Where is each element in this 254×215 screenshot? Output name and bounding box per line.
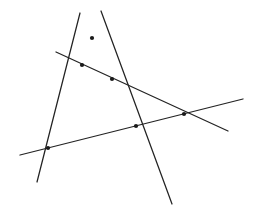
line-figure-canvas bbox=[0, 0, 254, 215]
line-lower-transversal bbox=[20, 99, 243, 155]
intersection-node-left-upper bbox=[80, 63, 84, 67]
lines-group bbox=[20, 11, 243, 204]
intersection-node-mid-lower bbox=[134, 124, 138, 128]
intersection-node-apex bbox=[90, 36, 94, 40]
line-steep-right bbox=[101, 11, 172, 204]
line-steep-left bbox=[37, 13, 80, 182]
line-figure-svg bbox=[0, 0, 254, 215]
intersection-node-right bbox=[182, 112, 186, 116]
intersection-node-mid-upper bbox=[110, 77, 114, 81]
intersection-node-left-lower bbox=[46, 146, 50, 150]
